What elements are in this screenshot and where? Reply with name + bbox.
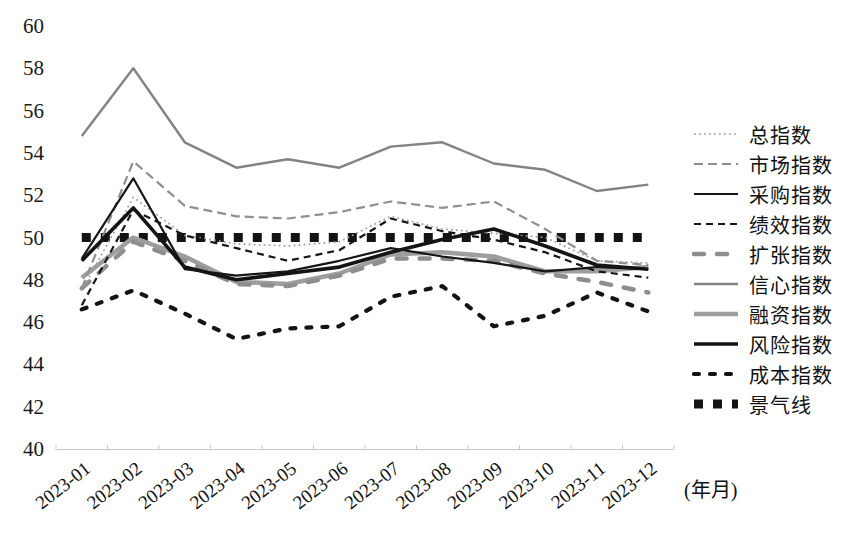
legend-item-景气线: 景气线 xyxy=(692,389,833,419)
y-axis-tick-label: 54 xyxy=(23,141,45,165)
line-chart: 60585654525048464442402023-012023-022023… xyxy=(0,0,862,554)
x-axis-tick-label: 2023-11 xyxy=(547,458,609,513)
y-axis-tick-label: 40 xyxy=(23,437,44,461)
y-axis-tick-label: 58 xyxy=(23,56,44,80)
legend-item-融资指数: 融资指数 xyxy=(692,299,833,329)
series-line-绩效指数 xyxy=(82,210,649,305)
x-axis-tick-label: 2023-02 xyxy=(83,458,146,514)
x-axis-unit-label: (年月) xyxy=(684,474,737,503)
legend-label: 景气线 xyxy=(749,390,812,419)
legend-item-成本指数: 成本指数 xyxy=(692,359,833,389)
y-axis-tick-label: 50 xyxy=(23,226,44,250)
legend-line-sample xyxy=(692,303,740,325)
series-line-信心指数 xyxy=(82,68,649,191)
legend-line-sample xyxy=(692,243,740,265)
legend-item-风险指数: 风险指数 xyxy=(692,329,833,359)
x-axis-tick-label: 2023-06 xyxy=(289,458,352,514)
legend-item-采购指数: 采购指数 xyxy=(692,179,833,209)
x-axis-tick-label: 2023-04 xyxy=(186,457,249,513)
legend-line-sample xyxy=(692,273,740,295)
legend-label: 绩效指数 xyxy=(749,210,833,239)
legend-line-sample xyxy=(692,123,740,145)
legend-item-扩张指数: 扩张指数 xyxy=(692,239,833,269)
legend-label: 市场指数 xyxy=(749,150,833,179)
y-axis-tick-label: 56 xyxy=(23,99,44,123)
legend-line-sample xyxy=(692,183,740,205)
x-axis-tick-label: 2023-07 xyxy=(340,458,403,514)
legend-line-sample xyxy=(692,153,740,175)
legend-item-绩效指数: 绩效指数 xyxy=(692,209,833,239)
x-axis-tick-label: 2023-09 xyxy=(443,458,506,514)
chart-legend: 总指数市场指数采购指数绩效指数扩张指数信心指数融资指数风险指数成本指数景气线 xyxy=(692,119,833,419)
legend-item-市场指数: 市场指数 xyxy=(692,149,833,179)
x-axis-tick-label: 2023-05 xyxy=(237,458,300,514)
y-axis-tick-label: 44 xyxy=(23,352,45,376)
y-axis-tick-label: 60 xyxy=(23,14,44,38)
legend-item-信心指数: 信心指数 xyxy=(692,269,833,299)
legend-label: 信心指数 xyxy=(749,270,833,299)
legend-line-sample xyxy=(692,213,740,235)
x-axis-tick-label: 2023-08 xyxy=(392,458,455,514)
legend-item-总指数: 总指数 xyxy=(692,119,833,149)
legend-label: 采购指数 xyxy=(749,180,833,209)
y-axis-tick-label: 52 xyxy=(23,183,44,207)
legend-label: 融资指数 xyxy=(749,300,833,329)
x-axis-tick-label: 2023-10 xyxy=(495,458,558,514)
x-axis-tick-label: 2023-03 xyxy=(134,458,197,514)
legend-label: 扩张指数 xyxy=(749,240,833,269)
legend-line-sample xyxy=(692,363,740,385)
legend-line-sample xyxy=(692,393,740,415)
legend-label: 成本指数 xyxy=(749,360,833,389)
legend-line-sample xyxy=(692,333,740,355)
y-axis-tick-label: 48 xyxy=(23,268,44,292)
series-line-成本指数 xyxy=(82,286,649,339)
legend-label: 风险指数 xyxy=(749,330,833,359)
legend-label: 总指数 xyxy=(749,120,812,149)
x-axis-tick-label: 2023-01 xyxy=(31,458,94,514)
x-axis-tick-label: 2023-12 xyxy=(598,458,661,514)
y-axis-tick-label: 42 xyxy=(23,395,44,419)
y-axis-tick-label: 46 xyxy=(23,310,44,334)
